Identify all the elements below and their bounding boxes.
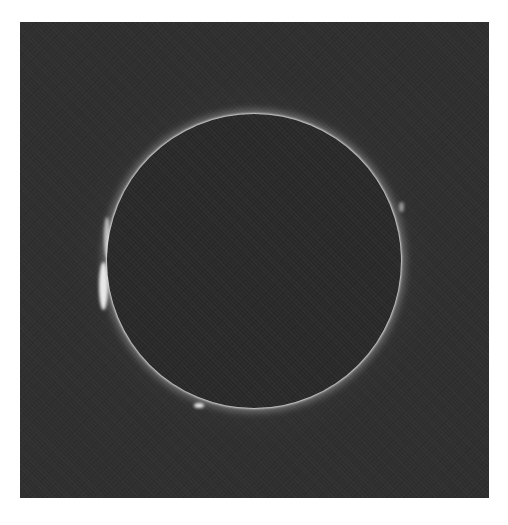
prominence-bottom [194,403,204,408]
prominence-right [399,202,404,212]
moon-disc [107,114,401,408]
moon-texture [107,114,401,408]
eclipse-photo [20,22,489,498]
